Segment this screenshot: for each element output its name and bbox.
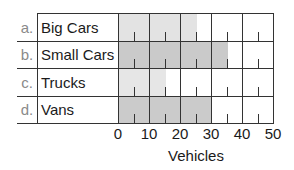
x-axis-title: Vehicles xyxy=(166,147,226,164)
row-letter: b. xyxy=(17,41,37,68)
minor-tick xyxy=(196,32,197,41)
minor-tick xyxy=(134,114,135,123)
minor-tick xyxy=(258,114,259,123)
bar-trucks xyxy=(119,69,166,96)
minor-tick xyxy=(196,114,197,123)
row-label-trucks: Trucks xyxy=(41,69,85,96)
row-label-vans: Vans xyxy=(41,96,74,123)
row-letter: d. xyxy=(17,96,37,123)
gridline-50 xyxy=(273,13,274,124)
x-tick-label: 50 xyxy=(258,125,288,142)
minor-tick xyxy=(258,87,259,96)
minor-tick xyxy=(227,32,228,41)
x-tick-label: 40 xyxy=(227,125,257,142)
x-tick-label: 0 xyxy=(103,125,133,142)
row-label-big-cars: Big Cars xyxy=(41,14,99,41)
minor-tick xyxy=(227,114,228,123)
bar-big-cars xyxy=(119,14,197,41)
minor-tick xyxy=(258,59,259,68)
minor-tick xyxy=(227,59,228,68)
minor-tick xyxy=(134,32,135,41)
minor-tick xyxy=(227,87,228,96)
minor-tick xyxy=(196,87,197,96)
gridline-30 xyxy=(211,13,212,124)
row-label-small-cars: Small Cars xyxy=(41,41,114,68)
label-column-left-border xyxy=(37,13,38,124)
minor-tick xyxy=(165,32,166,41)
x-tick-label: 20 xyxy=(165,125,195,142)
gridline-20 xyxy=(180,13,181,124)
minor-tick xyxy=(165,114,166,123)
minor-tick xyxy=(165,59,166,68)
minor-tick xyxy=(196,59,197,68)
gridline-10 xyxy=(149,13,150,124)
minor-tick xyxy=(134,87,135,96)
row-letter: c. xyxy=(17,69,37,96)
x-tick-label: 30 xyxy=(196,125,226,142)
minor-tick xyxy=(165,87,166,96)
gridline-0 xyxy=(118,13,119,124)
x-tick-label: 10 xyxy=(134,125,164,142)
minor-tick xyxy=(258,32,259,41)
vehicle-bar-chart: a. Big Cars b. Small Cars c. Trucks d. V… xyxy=(0,0,294,170)
minor-tick xyxy=(134,59,135,68)
gridline-40 xyxy=(242,13,243,124)
row-letter: a. xyxy=(17,14,37,41)
x-axis-line xyxy=(17,123,273,124)
